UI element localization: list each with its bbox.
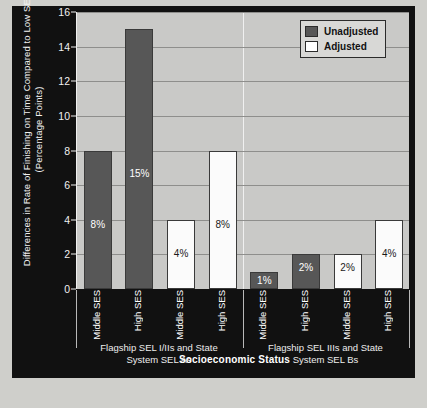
bar: 8%	[209, 151, 237, 290]
y-axis-tick-label: 6	[46, 179, 70, 191]
y-axis-tick-label: 4	[46, 214, 70, 226]
group-title-line: Flagship SEL I/IIs and State	[76, 342, 242, 354]
legend-item[interactable]: Unadjusted	[305, 24, 378, 39]
legend-label-adjusted: Adjusted	[324, 41, 367, 52]
bar: 15%	[125, 29, 153, 289]
bar-value-label: 4%	[168, 248, 194, 259]
chart-figure: Differences in Rate of Finishing on Time…	[0, 0, 427, 408]
legend-swatch-unadjusted	[305, 26, 318, 37]
x-axis-tick-label: High SES	[382, 290, 427, 331]
bar: 4%	[375, 220, 403, 289]
chart-legend: Unadjusted Adjusted	[300, 20, 386, 58]
bar-value-label: 8%	[210, 219, 236, 230]
y-axis-tick-label: 2	[46, 248, 70, 260]
y-axis-tick-label: 16	[46, 6, 70, 18]
group-separator-tick	[76, 290, 77, 348]
chart-frame: Differences in Rate of Finishing on Time…	[12, 6, 415, 378]
y-axis-ticks: 0246810121416	[30, 6, 70, 378]
bar: 4%	[167, 220, 195, 289]
legend-item[interactable]: Adjusted	[305, 39, 378, 54]
group-separator-tick	[409, 290, 410, 348]
group-separator-tick	[243, 290, 244, 348]
bar-value-label: 4%	[376, 248, 402, 259]
bar: 1%	[250, 272, 278, 289]
x-axis-title: Socioeconomic Status	[62, 354, 407, 365]
legend-label-unadjusted: Unadjusted	[324, 26, 378, 37]
bar-value-label: 2%	[293, 262, 319, 273]
legend-swatch-adjusted	[305, 41, 318, 52]
bar: 2%	[292, 254, 320, 289]
bar-value-label: 1%	[251, 275, 277, 286]
y-axis-tick-label: 10	[46, 110, 70, 122]
bar-value-label: 8%	[85, 219, 111, 230]
bar-value-label: 15%	[126, 168, 152, 179]
bar: 2%	[334, 254, 362, 289]
y-axis-tick-label: 12	[46, 75, 70, 87]
y-axis-tick-label: 0	[46, 283, 70, 295]
y-axis-tick-label: 14	[46, 41, 70, 53]
y-axis-tick-label: 8	[46, 145, 70, 157]
gridline	[77, 12, 409, 13]
group-title-line: Flagship SEL IIIs and State	[243, 342, 409, 354]
bar-value-label: 2%	[335, 262, 361, 273]
bar: 8%	[84, 151, 112, 290]
